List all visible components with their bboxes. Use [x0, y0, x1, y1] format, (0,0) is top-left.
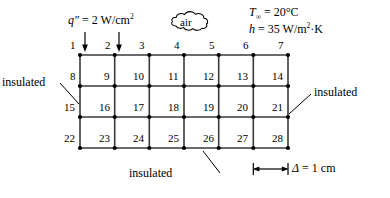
ambient-temp-symbol: T — [249, 5, 256, 19]
insulated-label-right: insulated — [314, 86, 357, 98]
nodal-grid — [80, 55, 288, 148]
ambient-temperature-label: T∞ = 20°C — [249, 6, 299, 21]
node-label-28: 28 — [272, 133, 283, 144]
spacing-symbol: Δ — [292, 161, 299, 175]
grid-spacing-label: Δ = 1 cm — [292, 162, 335, 174]
node-label-12: 12 — [203, 71, 214, 82]
node-label-17: 17 — [133, 102, 144, 113]
heat-flux-exponent: 2 — [130, 12, 134, 21]
leader-bottom — [203, 151, 220, 173]
ambient-temp-value: = 20°C — [264, 5, 299, 19]
conv-coeff-tail: ·K — [310, 22, 323, 36]
ambient-temp-subscript: ∞ — [256, 12, 261, 21]
node-label-9: 9 — [104, 71, 110, 82]
node-label-2: 2 — [105, 40, 111, 51]
node-label-5: 5 — [209, 40, 215, 51]
node-label-18: 18 — [168, 102, 179, 113]
heat-flux-prime: ″ — [74, 13, 79, 27]
node-label-6: 6 — [243, 40, 249, 51]
node-label-23: 23 — [99, 133, 110, 144]
node-label-13: 13 — [237, 71, 248, 82]
node-label-14: 14 — [272, 71, 283, 82]
heat-flux-value: = 2 W/cm — [82, 13, 130, 27]
node-label-25: 25 — [168, 133, 179, 144]
scale-bar — [253, 163, 289, 175]
convection-coefficient-label: h = 35 W/m2·K — [249, 22, 323, 35]
insulated-label-bottom: insulated — [129, 167, 172, 179]
node-label-15: 15 — [64, 102, 75, 113]
leader-right — [289, 94, 311, 114]
conv-coeff-value: = 35 W/m — [258, 22, 307, 36]
node-label-4: 4 — [174, 40, 180, 51]
node-label-26: 26 — [203, 133, 214, 144]
node-label-22: 22 — [64, 133, 75, 144]
insulated-label-left: insulated — [2, 76, 45, 88]
node-label-27: 27 — [237, 133, 248, 144]
node-label-16: 16 — [99, 102, 110, 113]
air-label: air — [180, 17, 192, 28]
node-label-8: 8 — [70, 71, 76, 82]
node-label-24: 24 — [133, 133, 144, 144]
node-label-10: 10 — [133, 71, 144, 82]
spacing-value: = 1 cm — [302, 161, 335, 175]
node-label-21: 21 — [272, 102, 283, 113]
insulated-leader-lines — [60, 83, 311, 173]
node-label-7: 7 — [278, 40, 284, 51]
node-label-20: 20 — [237, 102, 248, 113]
node-label-19: 19 — [203, 102, 214, 113]
node-label-1: 1 — [70, 40, 76, 51]
conv-coeff-symbol: h — [249, 22, 255, 36]
node-label-11: 11 — [168, 71, 179, 82]
diagram-canvas: q″ = 2 W/cm2 air T∞ = 20°C h = 35 W/m2·K… — [0, 0, 390, 198]
heat-flux-arrows — [82, 32, 122, 52]
heat-flux-label: q″ = 2 W/cm2 — [68, 13, 134, 26]
node-label-3: 3 — [139, 40, 145, 51]
